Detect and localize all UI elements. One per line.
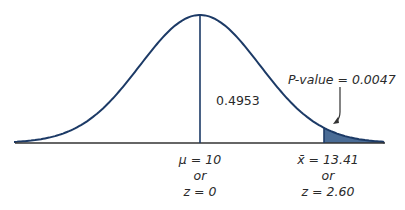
mean-value: μ = 10	[172, 152, 228, 168]
p-value-label: P-value = 0.0047	[288, 72, 396, 88]
mean-z: z = 0	[172, 184, 228, 200]
xbar-value: x̄ = 13.41	[296, 152, 360, 168]
xbar-label: x̄ = 13.41 or z = 2.60	[296, 152, 360, 200]
xbar-or: or	[296, 168, 360, 184]
arrow-head-icon	[333, 117, 339, 124]
center-area-label: 0.4953	[216, 93, 260, 109]
mean-or: or	[172, 168, 228, 184]
p-value-arrow	[336, 87, 340, 122]
mean-label: μ = 10 or z = 0	[172, 152, 228, 200]
xbar-z: z = 2.60	[296, 184, 360, 200]
